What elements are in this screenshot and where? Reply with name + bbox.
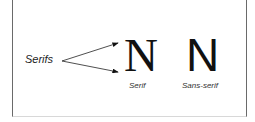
lower-arrow <box>62 61 118 72</box>
upper-arrow <box>62 43 118 61</box>
sans-serif-caption: Sans-serif <box>182 81 218 90</box>
serif-caption: Serif <box>129 81 145 90</box>
sans-serif-letter: N <box>186 32 219 79</box>
serif-letter: N <box>124 32 158 79</box>
